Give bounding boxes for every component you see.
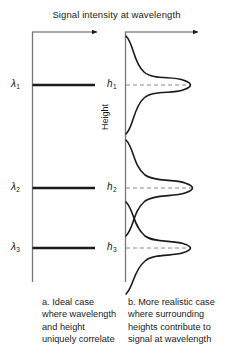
- height-axis-label: Height: [100, 74, 110, 130]
- tick-label-lambda-1: λ1: [11, 79, 20, 89]
- tick-label-h-2-subscript: 2: [113, 186, 117, 193]
- tick-label-lambda-2: λ2: [11, 182, 20, 192]
- tick-label-lambda-1-subscript: 1: [16, 83, 20, 90]
- tick-label-h-2-symbol: h: [107, 181, 113, 192]
- tick-label-lambda-3: λ3: [11, 242, 20, 252]
- tick-label-h-3: h3: [107, 242, 117, 252]
- tick-label-h-2: h2: [107, 182, 117, 192]
- caption-realistic-case: b. More realistic case where surrounding…: [128, 296, 228, 346]
- left-panel-axes: [33, 32, 98, 283]
- tick-label-lambda-2-subscript: 2: [16, 186, 20, 193]
- tick-label-h-3-subscript: 3: [113, 246, 117, 253]
- tick-label-h-1-subscript: 1: [113, 83, 117, 90]
- tick-label-h-3-symbol: h: [107, 241, 113, 252]
- right-panel-peaks: [126, 36, 193, 294]
- figure-container: Signal intensity at wavelength: [0, 0, 233, 354]
- caption-ideal-case: a. Ideal case where wavelength and heigh…: [42, 296, 120, 346]
- left-panel-bars: [33, 85, 96, 248]
- tick-label-lambda-3-subscript: 3: [16, 246, 20, 253]
